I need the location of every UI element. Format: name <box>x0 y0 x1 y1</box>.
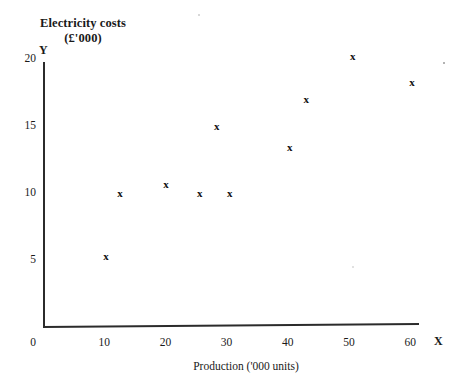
scan-speck <box>443 62 445 64</box>
data-point-marker: x <box>115 187 125 199</box>
data-point-marker: x <box>101 250 111 262</box>
data-point-marker: x <box>161 178 171 190</box>
x-tick-label: 30 <box>214 336 240 348</box>
scatter-chart: Electricity costs (£'000) Y X 0510152010… <box>0 0 468 390</box>
data-point-marker: x <box>225 187 235 199</box>
x-tick-label: 40 <box>275 336 301 348</box>
y-tick-label: 10 <box>12 186 36 198</box>
data-point-marker: x <box>212 120 222 132</box>
chart-title-line-1: Electricity costs <box>40 16 126 30</box>
scan-speck <box>352 266 354 268</box>
data-point-marker: x <box>285 141 295 153</box>
x-axis-title: Production ('000 units) <box>0 360 468 372</box>
chart-title-line-2: (£'000) <box>8 31 158 46</box>
data-point-marker: x <box>348 50 358 62</box>
y-axis-letter: Y <box>39 43 48 58</box>
x-axis-line <box>43 323 419 328</box>
y-axis-line <box>43 62 45 328</box>
y-tick-label: 0 <box>12 336 36 348</box>
y-tick-label: 5 <box>12 253 36 265</box>
y-tick-label: 20 <box>12 52 36 64</box>
x-tick-label: 50 <box>336 336 362 348</box>
data-point-marker: x <box>301 93 311 105</box>
x-tick-label: 20 <box>152 336 178 348</box>
data-point-marker: x <box>407 76 417 88</box>
data-point-marker: x <box>195 187 205 199</box>
y-tick-label: 15 <box>12 119 36 131</box>
scan-speck <box>198 14 200 16</box>
x-tick-label: 10 <box>91 336 117 348</box>
x-axis-letter: X <box>434 334 443 349</box>
x-tick-label: 60 <box>397 336 423 348</box>
chart-title: Electricity costs (£'000) <box>8 16 158 46</box>
